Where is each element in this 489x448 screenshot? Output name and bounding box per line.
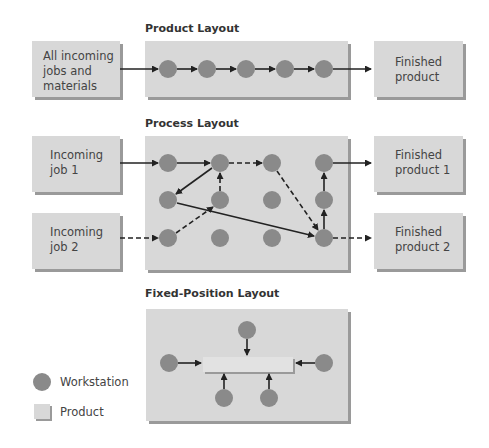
legend-workstation-label: Workstation (60, 375, 129, 389)
product-legend-icon (34, 404, 50, 419)
legend-product-label: Product (60, 405, 104, 419)
workstation-icons (33, 60, 333, 407)
